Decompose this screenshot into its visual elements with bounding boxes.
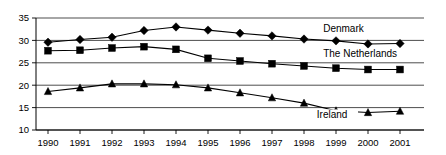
x-tick-label: 1993 xyxy=(133,137,154,148)
data-point-denmark-1999 xyxy=(332,37,340,45)
data-point-denmark-1990 xyxy=(44,38,52,46)
data-point-the-netherlands-1999 xyxy=(333,65,340,72)
data-point-the-netherlands-2001 xyxy=(397,66,404,73)
x-tick-label: 1996 xyxy=(229,137,250,148)
data-point-the-netherlands-1990 xyxy=(45,47,52,54)
data-point-the-netherlands-1993 xyxy=(141,43,148,50)
data-point-the-netherlands-1992 xyxy=(109,45,116,52)
x-tick-label: 1999 xyxy=(325,137,346,148)
series-label-the-netherlands: The Netherlands xyxy=(323,48,397,59)
y-tick-label: 10 xyxy=(18,124,29,135)
data-point-denmark-1993 xyxy=(140,26,148,34)
y-tick-label: 35 xyxy=(18,12,29,23)
x-tick-label: 1991 xyxy=(69,137,90,148)
data-point-the-netherlands-1997 xyxy=(269,60,276,67)
y-tick-label: 15 xyxy=(18,102,29,113)
series-labels-group: DenmarkThe NetherlandsIreland xyxy=(315,23,409,121)
chart-canvas: 101520253035 199019911992199319941995199… xyxy=(0,0,446,155)
data-point-the-netherlands-1994 xyxy=(173,46,180,53)
data-point-denmark-1998 xyxy=(300,35,308,43)
data-point-the-netherlands-1996 xyxy=(237,58,244,65)
x-axis-ticks-group: 1990199119921993199419951996199719981999… xyxy=(37,130,410,148)
data-point-denmark-1991 xyxy=(76,35,84,43)
x-tick-label: 1994 xyxy=(165,137,186,148)
series-label-denmark: Denmark xyxy=(323,23,365,34)
line-chart: 101520253035 199019911992199319941995199… xyxy=(0,0,446,155)
x-tick-label: 1997 xyxy=(261,137,282,148)
x-tick-label: 1995 xyxy=(197,137,218,148)
data-point-the-netherlands-1991 xyxy=(77,47,84,54)
data-point-denmark-1996 xyxy=(236,29,244,37)
x-tick-label: 1992 xyxy=(101,137,122,148)
y-tick-label: 20 xyxy=(18,80,29,91)
data-point-the-netherlands-1995 xyxy=(205,55,212,62)
y-axis-ticks-group: 101520253035 xyxy=(18,12,36,135)
data-point-the-netherlands-2000 xyxy=(365,66,372,73)
x-tick-label: 2001 xyxy=(389,137,410,148)
data-point-denmark-1997 xyxy=(268,32,276,40)
series-label-ireland: Ireland xyxy=(317,109,348,120)
series-group xyxy=(44,23,404,116)
y-tick-label: 30 xyxy=(18,35,29,46)
data-point-denmark-1994 xyxy=(172,23,180,31)
data-point-the-netherlands-1998 xyxy=(301,63,308,70)
x-tick-label: 1998 xyxy=(293,137,314,148)
y-tick-label: 25 xyxy=(18,57,29,68)
x-tick-label: 1990 xyxy=(37,137,58,148)
data-point-denmark-2000 xyxy=(364,40,372,48)
data-point-denmark-1995 xyxy=(204,26,212,34)
x-tick-label: 2000 xyxy=(357,137,378,148)
